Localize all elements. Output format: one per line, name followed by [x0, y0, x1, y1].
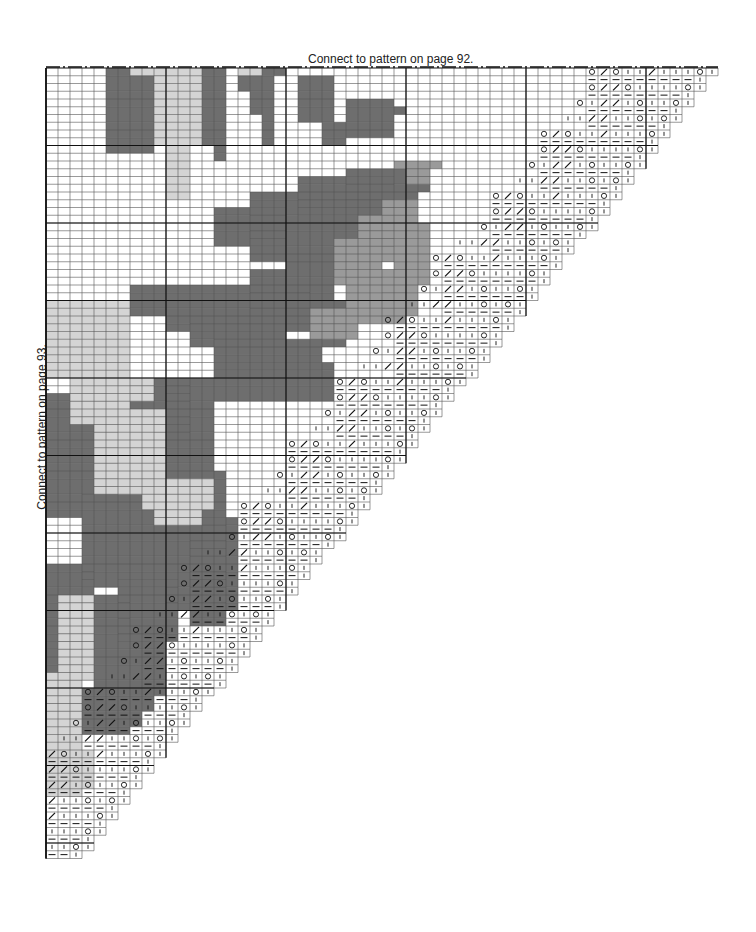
knitting-chart [0, 0, 756, 932]
grid-lines [46, 68, 718, 859]
